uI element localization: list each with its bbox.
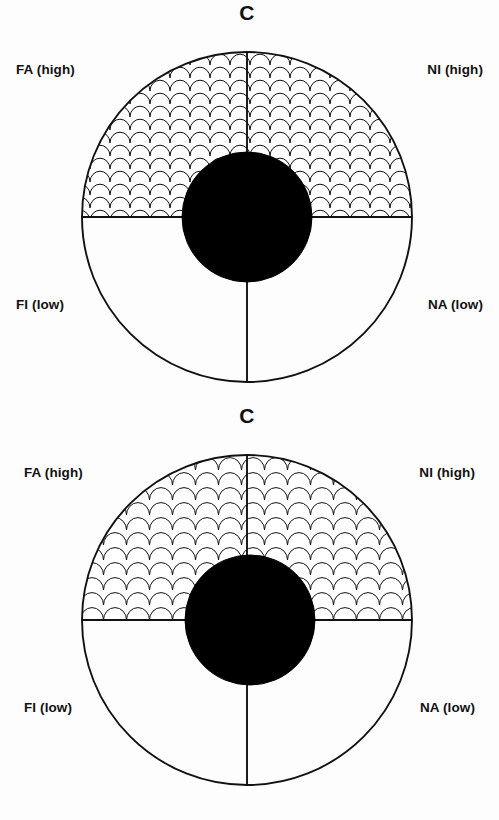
figure-bottom: C FA (high) NI (high) FI (low) NA (low)	[0, 410, 499, 820]
center-disc	[182, 152, 312, 282]
label-upper-right: NI (high)	[419, 465, 475, 480]
label-lower-left: FI (low)	[24, 700, 72, 715]
label-lower-right: NA (low)	[428, 297, 483, 312]
top-label-c: C	[239, 404, 254, 428]
figure-top: C FA (high) NI (high) FI (low) NA (low)	[0, 0, 499, 410]
center-disc	[185, 555, 315, 685]
label-upper-left: FA (high)	[16, 62, 75, 77]
label-upper-right: NI (high)	[427, 62, 483, 77]
label-lower-right: NA (low)	[420, 700, 475, 715]
label-lower-left: FI (low)	[16, 297, 64, 312]
top-label-c: C	[239, 1, 254, 25]
label-upper-left: FA (high)	[24, 465, 83, 480]
figure-stack: C FA (high) NI (high) FI (low) NA (low)	[0, 0, 499, 820]
